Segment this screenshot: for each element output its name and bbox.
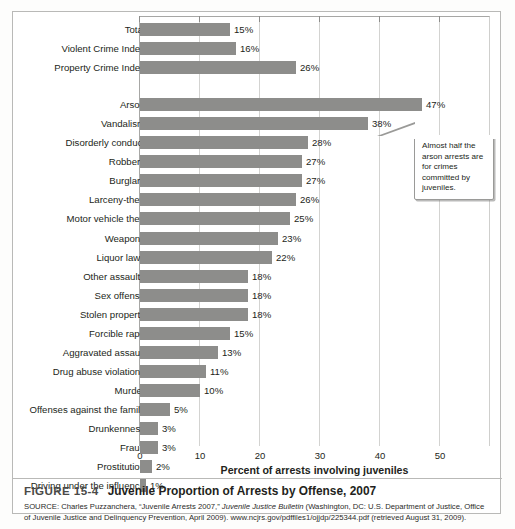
- bar-value-label: 10%: [204, 384, 223, 397]
- bar-category-label: Liquor laws: [0, 251, 145, 264]
- bar-category-label: Weapons: [0, 232, 145, 245]
- bar-value-label: 27%: [306, 174, 325, 187]
- bar-value-label: 23%: [282, 232, 301, 245]
- bar-category-label: Vandalism: [0, 117, 145, 130]
- bar: [140, 327, 230, 340]
- bar: [140, 232, 278, 245]
- bar-chart: 01020304050 Total15%Violent Crime Index1…: [13, 12, 502, 467]
- callout-text: Almost half the arson arrests are for cr…: [422, 141, 483, 192]
- figure-source: SOURCE: Charles Puzzanchera, “Juvenile A…: [24, 501, 492, 524]
- bar-row: Liquor laws22%: [13, 251, 502, 264]
- bar-value-label: 27%: [306, 155, 325, 168]
- bar-row: Aggravated assault13%: [13, 346, 502, 359]
- bar-value-label: 5%: [174, 403, 188, 416]
- bar-row: Weapons23%: [13, 232, 502, 245]
- bar: [140, 212, 290, 225]
- bar: [140, 23, 230, 36]
- bar-category-label: Burglary: [0, 174, 145, 187]
- axis-tick-40: [379, 16, 380, 22]
- bar-category-label: Violent Crime Index: [0, 42, 145, 55]
- bar-category-label: Stolen property: [0, 308, 145, 321]
- bar-category-label: Arson: [0, 98, 145, 111]
- bar-row: Drunkenness3%: [13, 422, 502, 435]
- source-prefix: SOURCE: Charles Puzzanchera, “Juvenile A…: [24, 502, 222, 511]
- bar-value-label: 28%: [312, 136, 331, 149]
- axis-tick-10: [199, 16, 200, 22]
- bar-category-label: Robbery: [0, 155, 145, 168]
- bar: [140, 403, 170, 416]
- figure-panel: 01020304050 Total15%Violent Crime Index1…: [12, 11, 501, 514]
- bar-value-label: 26%: [300, 61, 319, 74]
- bar: [140, 422, 158, 435]
- bar-category-label: Aggravated assault: [0, 346, 145, 359]
- axis-tick-20: [259, 16, 260, 22]
- callout-box: Almost half the arson arrests are for cr…: [414, 135, 494, 200]
- bar-category-label: Forcible rape: [0, 327, 145, 340]
- bar-row: Arson47%: [13, 98, 502, 111]
- bar-value-label: 15%: [234, 23, 253, 36]
- bar-category-label: Drug abuse violations: [0, 365, 145, 378]
- bar: [140, 441, 158, 454]
- figure-caption: FIGURE 15-4 Juvenile Proportion of Arres…: [24, 484, 376, 498]
- bar: [140, 155, 302, 168]
- figure-root: 01020304050 Total15%Violent Crime Index1…: [0, 0, 515, 529]
- bar-value-label: 16%: [240, 42, 259, 55]
- bar-row: Murder10%: [13, 384, 502, 397]
- bar-value-label: 3%: [162, 422, 176, 435]
- bar-category-label: Larceny-theft: [0, 193, 145, 206]
- x-axis-title: Percent of arrests involving juveniles: [139, 464, 490, 476]
- bar-category-label: Sex offense: [0, 289, 145, 302]
- bar-value-label: 11%: [210, 365, 229, 378]
- bar: [140, 346, 218, 359]
- bar-category-label: Motor vehicle theft: [0, 212, 145, 225]
- bar: [140, 61, 296, 74]
- bar-row: Total15%: [13, 23, 502, 36]
- bar-row: Violent Crime Index16%: [13, 42, 502, 55]
- bar: [140, 251, 272, 264]
- bar: [140, 270, 248, 283]
- bar-category-label: Property Crime Index: [0, 61, 145, 74]
- bar-row: Forcible rape15%: [13, 327, 502, 340]
- callout-tail-mask: [414, 135, 496, 139]
- bar-row: Property Crime Index26%: [13, 61, 502, 74]
- bar-value-label: 25%: [294, 212, 313, 225]
- bar: [140, 174, 302, 187]
- bar-category-label: Offenses against the family: [0, 403, 145, 416]
- bar-category-label: Drunkenness: [0, 422, 145, 435]
- bar-category-label: Murder: [0, 384, 145, 397]
- bar: [140, 193, 296, 206]
- bar-row: Stolen property18%: [13, 308, 502, 321]
- axis-tick-0: [139, 16, 140, 22]
- bar-category-label: Prostitution: [0, 460, 145, 473]
- bar: [140, 384, 200, 397]
- source-publication: Juvenile Justice Bulletin: [222, 502, 304, 511]
- bar-value-label: 18%: [252, 308, 271, 321]
- bar-row: Fraud3%: [13, 441, 502, 454]
- bar: [140, 308, 248, 321]
- bar-category-label: Total: [0, 23, 145, 36]
- bar: [140, 117, 368, 130]
- bar-value-label: 18%: [252, 270, 271, 283]
- bar-category-label: Other assaults: [0, 270, 145, 283]
- bar-category-label: Fraud: [0, 441, 145, 454]
- bar: [140, 289, 248, 302]
- bar-value-label: 3%: [162, 441, 176, 454]
- bar: [140, 42, 236, 55]
- bar-value-label: 13%: [222, 346, 241, 359]
- callout-tail-shape: [379, 124, 415, 137]
- bar-row: Drug abuse violations11%: [13, 365, 502, 378]
- axis-tick-30: [319, 16, 320, 22]
- bar-value-label: 18%: [252, 289, 271, 302]
- bar-row: Vandalism38%: [13, 117, 502, 130]
- bar: [140, 98, 422, 111]
- bar-category-label: Disorderly conduct: [0, 136, 145, 149]
- bar-row: Sex offense18%: [13, 289, 502, 302]
- bar: [140, 365, 206, 378]
- figure-title: Juvenile Proportion of Arrests by Offens…: [108, 484, 377, 498]
- bar-value-label: 22%: [276, 251, 295, 264]
- bar-value-label: 47%: [426, 98, 445, 111]
- axis-tick-50: [439, 16, 440, 22]
- figure-number: FIGURE 15-4: [24, 484, 99, 497]
- bar-row: Other assaults18%: [13, 270, 502, 283]
- bar-value-label: 26%: [300, 193, 319, 206]
